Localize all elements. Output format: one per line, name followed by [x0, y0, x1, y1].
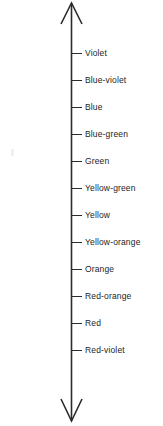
tick-mark-icon	[72, 242, 82, 243]
tick-label: Yellow	[85, 210, 110, 220]
tick-row: Blue	[72, 100, 103, 114]
tick-row: Yellow	[72, 208, 110, 222]
scan-artifact	[11, 149, 14, 156]
tick-row: Yellow-green	[72, 181, 136, 195]
tick-mark-icon	[72, 53, 82, 54]
tick-mark-icon	[72, 107, 82, 108]
tick-row: Red	[72, 316, 101, 330]
tick-row: Red-orange	[72, 289, 131, 303]
tick-mark-icon	[72, 188, 82, 189]
tick-mark-icon	[72, 269, 82, 270]
tick-row: Red-violet	[72, 343, 125, 357]
tick-row: Blue-violet	[72, 73, 126, 87]
tick-label-layer: VioletBlue-violetBlueBlue-greenGreenYell…	[0, 0, 163, 426]
tick-label: Red-orange	[85, 291, 131, 301]
tick-mark-icon	[72, 80, 82, 81]
tick-mark-icon	[72, 296, 82, 297]
tick-label: Yellow-orange	[85, 237, 141, 247]
tick-label: Blue-violet	[85, 75, 126, 85]
tick-row: Blue-green	[72, 127, 128, 141]
tick-label: Blue	[85, 102, 103, 112]
tick-row: Yellow-orange	[72, 235, 141, 249]
tick-row: Green	[72, 154, 109, 168]
tick-label: Red	[85, 318, 101, 328]
tick-label: Blue-green	[85, 129, 128, 139]
tick-label: Violet	[85, 48, 107, 58]
tick-mark-icon	[72, 215, 82, 216]
tick-label: Red-violet	[85, 345, 125, 355]
color-spectrum-diagram: VioletBlue-violetBlueBlue-greenGreenYell…	[0, 0, 163, 426]
tick-mark-icon	[72, 323, 82, 324]
tick-label: Orange	[85, 264, 114, 274]
tick-label: Yellow-green	[85, 183, 136, 193]
tick-row: Violet	[72, 46, 107, 60]
tick-mark-icon	[72, 350, 82, 351]
tick-row: Orange	[72, 262, 114, 276]
tick-mark-icon	[72, 134, 82, 135]
tick-mark-icon	[72, 161, 82, 162]
tick-label: Green	[85, 156, 109, 166]
